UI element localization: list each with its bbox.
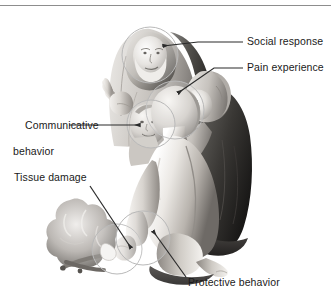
circle-social-response <box>122 27 178 83</box>
label-protective-behavior: Protective behavior <box>188 276 280 289</box>
label-tissue-damage: Tissue damage <box>14 171 87 184</box>
label-social-response: Social response <box>247 35 323 48</box>
illustration-page: Social response Pain experience Communic… <box>0 0 331 297</box>
label-pain-experience: Pain experience <box>247 61 324 74</box>
circle-communicative-behavior <box>127 100 175 148</box>
label-communicative-behavior-line2: behavior <box>13 145 99 158</box>
label-communicative-behavior-line1: Communicative <box>25 119 99 131</box>
